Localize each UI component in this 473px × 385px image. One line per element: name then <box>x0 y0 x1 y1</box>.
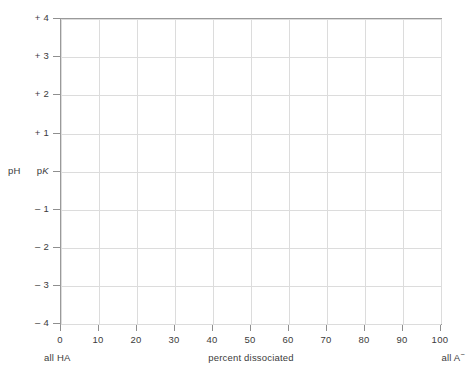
x-tick-label: 30 <box>154 334 194 345</box>
y-tick <box>53 18 60 19</box>
gridline-horizontal <box>61 324 441 325</box>
x-tick-label: 50 <box>230 334 270 345</box>
y-axis-label: pH <box>8 165 30 176</box>
x-tick <box>98 325 99 331</box>
x-tick <box>136 325 137 331</box>
x-tick <box>212 325 213 331</box>
x-tick-label: 10 <box>78 334 118 345</box>
y-tick-label: + 2 <box>0 88 49 99</box>
y-tick-label: + 1 <box>0 127 49 138</box>
x-tick-label: 80 <box>344 334 384 345</box>
y-tick <box>53 94 60 95</box>
gridline-horizontal <box>61 286 441 287</box>
y-tick <box>53 56 60 57</box>
x-tick <box>174 325 175 331</box>
y-tick-label: – 2 <box>0 241 49 252</box>
annotation-all-a-base: all A <box>441 352 460 363</box>
x-tick <box>364 325 365 331</box>
x-tick <box>402 325 403 331</box>
x-tick-label: 100 <box>420 334 460 345</box>
gridline-horizontal <box>61 134 441 135</box>
y-tick-label: + 4 <box>0 12 49 23</box>
y-tick-label: – 3 <box>0 279 49 290</box>
gridline-horizontal <box>61 57 441 58</box>
x-axis-label: percent dissociated <box>60 352 442 363</box>
plot-area <box>60 18 442 325</box>
gridline-horizontal <box>61 95 441 96</box>
x-tick <box>326 325 327 331</box>
y-tick <box>53 247 60 248</box>
gridline-vertical <box>441 19 442 324</box>
y-tick-label: + 3 <box>0 50 49 61</box>
gridline-horizontal <box>61 19 441 20</box>
annotation-all-a-minus: all A− <box>441 352 465 363</box>
gridline-horizontal <box>61 210 441 211</box>
x-tick-label: 70 <box>306 334 346 345</box>
ph-dissociation-chart: 0 10 20 30 40 50 60 70 80 90 100 + 4 + 3… <box>0 0 473 385</box>
x-tick <box>60 325 61 331</box>
x-tick-label: 90 <box>382 334 422 345</box>
x-tick-label: 0 <box>40 334 80 345</box>
y-tick <box>53 133 60 134</box>
x-tick <box>440 325 441 331</box>
y-tick <box>53 209 60 210</box>
y-tick-label: – 4 <box>0 317 49 328</box>
y-tick <box>53 323 60 324</box>
x-tick-label: 60 <box>268 334 308 345</box>
x-tick-label: 40 <box>192 334 232 345</box>
annotation-all-ha: all HA <box>44 352 71 363</box>
y-tick <box>53 171 60 172</box>
gridline-horizontal <box>61 172 441 173</box>
pk-italic-k: K <box>42 165 49 176</box>
y-tick <box>53 285 60 286</box>
annotation-minus-superscript: − <box>460 350 465 359</box>
x-tick <box>250 325 251 331</box>
y-tick-label: – 1 <box>0 203 49 214</box>
x-tick <box>288 325 289 331</box>
x-tick-label: 20 <box>116 334 156 345</box>
gridline-horizontal <box>61 248 441 249</box>
